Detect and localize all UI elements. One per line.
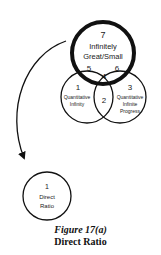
curved-arrow: [17, 41, 66, 158]
figure-title: Direct Ratio: [0, 236, 161, 247]
left-circle-number: 1: [76, 83, 81, 92]
right-circle-line3: Progress: [120, 108, 141, 114]
right-circle-line2: Infinite: [123, 101, 138, 107]
big-circle-number: 7: [100, 30, 105, 40]
intersection-6: 6: [115, 64, 120, 73]
result-circle-line2: Ratio: [40, 203, 55, 209]
intersection-2: 2: [102, 96, 107, 105]
left-circle-line2: Infinity: [70, 101, 85, 107]
big-circle-line2: Great/Small: [83, 52, 123, 61]
left-circle-line1: Quantitative: [64, 94, 91, 100]
result-circle-line1: Direct: [39, 194, 55, 200]
right-circle-line1: Quantitative: [117, 94, 144, 100]
intersection-5: 5: [87, 64, 92, 73]
result-circle-number: 1: [45, 183, 49, 190]
figure-number: Figure 17(a): [0, 224, 161, 235]
intersection-4: 4: [102, 72, 107, 81]
big-circle-line1: Infinitely: [89, 42, 117, 51]
venn-diagram: 7 Infinitely Great/Small 5 4 6 2 1 Quant…: [0, 0, 161, 255]
right-circle-number: 3: [128, 83, 133, 92]
